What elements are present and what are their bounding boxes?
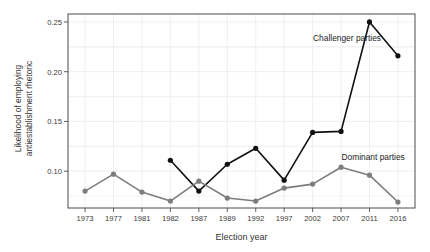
- x-tick-label: 2016: [378, 214, 418, 223]
- y-tick-label: 0.15: [30, 117, 62, 126]
- y-tick-label: 0.10: [30, 167, 62, 176]
- series-label-challenger: Challenger parties: [313, 33, 381, 43]
- y-tick-label: 0.25: [30, 17, 62, 26]
- chart-figure: Likelihood of employing antiestablishmen…: [0, 0, 430, 252]
- y-axis-title-line-1: Likelihood of employing: [13, 14, 24, 204]
- x-axis-title: Election year: [68, 232, 415, 242]
- series-label-dominant: Dominant parties: [341, 152, 404, 162]
- y-tick-label: 0.20: [30, 67, 62, 76]
